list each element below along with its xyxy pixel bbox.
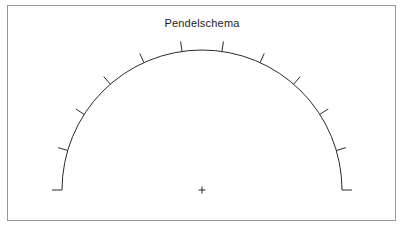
- tick-mark: [104, 77, 111, 85]
- figure-title: Pendelschema: [0, 17, 404, 30]
- tick-mark: [181, 42, 182, 52]
- tick-marks-group: [52, 42, 352, 190]
- tick-mark: [336, 148, 346, 151]
- tick-mark: [140, 54, 144, 63]
- arc-path: [62, 50, 342, 190]
- tick-mark: [58, 148, 68, 151]
- tick-mark: [76, 109, 84, 114]
- pivot-cross-marker: [199, 187, 206, 194]
- tick-mark: [222, 42, 223, 52]
- tick-mark: [320, 109, 328, 114]
- pendulum-diagram-screenshot: Pendelschema: [0, 0, 404, 227]
- pendulum-schematic: [0, 0, 404, 227]
- tick-mark: [260, 54, 264, 63]
- tick-mark: [294, 77, 301, 85]
- pendulum-arc: [62, 50, 342, 190]
